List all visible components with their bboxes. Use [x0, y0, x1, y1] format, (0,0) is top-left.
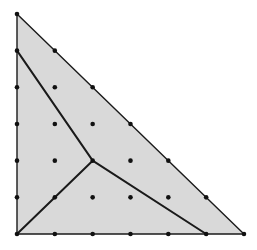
lattice-point [90, 195, 95, 200]
lattice-point [53, 122, 58, 127]
lattice-point [204, 195, 209, 200]
lattice-point [90, 122, 95, 127]
lattice-point [128, 158, 133, 163]
lattice-point [90, 85, 95, 90]
lattice-point [15, 12, 20, 17]
lattice-point [128, 122, 133, 127]
lattice-point [90, 158, 95, 163]
lattice-point [128, 232, 133, 237]
lattice-point [15, 122, 20, 127]
lattice-point [53, 85, 58, 90]
lattice-point [53, 195, 58, 200]
lattice-point [166, 158, 171, 163]
lattice-point [166, 232, 171, 237]
lattice-point [128, 195, 133, 200]
lattice-point [15, 158, 20, 163]
lattice-point [90, 232, 95, 237]
lattice-point [53, 158, 58, 163]
lattice-point [242, 232, 247, 237]
lattice-point [15, 195, 20, 200]
lattice-point [204, 232, 209, 237]
lattice-point [15, 48, 20, 53]
lattice-point [166, 195, 171, 200]
lattice-point [53, 232, 58, 237]
lattice-point [15, 85, 20, 90]
lattice-point [15, 232, 20, 237]
lattice-point [53, 48, 58, 53]
triangle-lattice-diagram [0, 0, 257, 250]
